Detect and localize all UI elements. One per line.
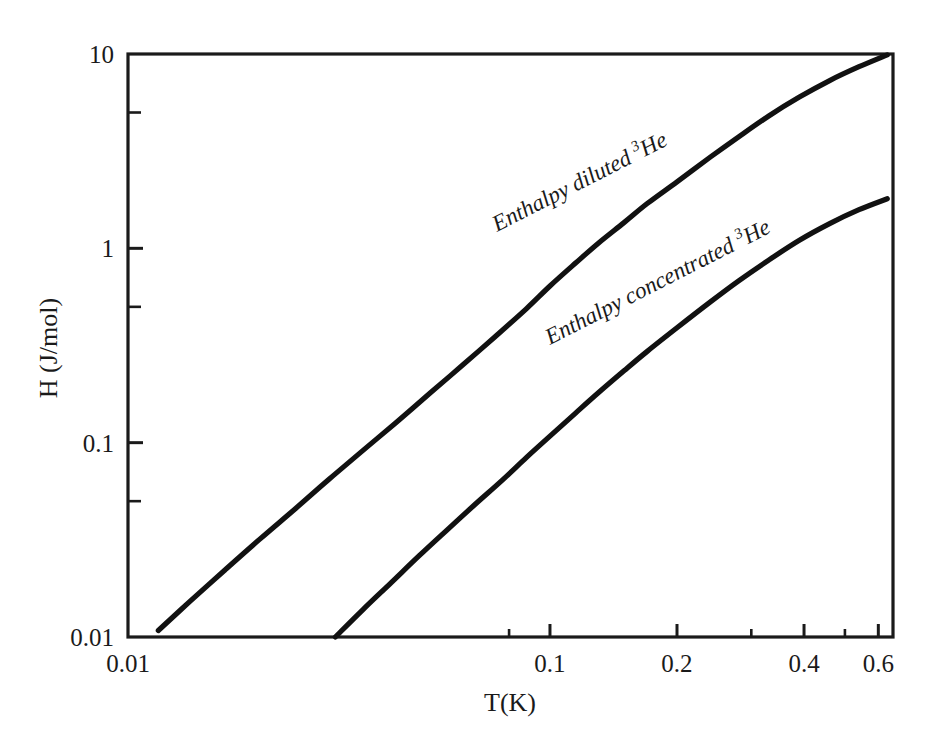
y-tick-label: 10 bbox=[89, 41, 114, 68]
x-tick-label: 0.2 bbox=[661, 650, 692, 677]
x-axis-title: T(K) bbox=[484, 688, 536, 717]
y-axis-title: H (J/mol) bbox=[34, 298, 63, 398]
y-tick-label: 1 bbox=[102, 235, 115, 262]
chart-background bbox=[0, 0, 944, 746]
x-tick-label: 0.6 bbox=[863, 650, 894, 677]
chart-canvas: 0.010.10.20.40.6 1010.10.01 T(K) H (J/mo… bbox=[0, 0, 944, 746]
x-tick-label: 0.01 bbox=[106, 650, 150, 677]
y-tick-label: 0.1 bbox=[83, 430, 114, 457]
x-tick-label: 0.1 bbox=[534, 650, 565, 677]
y-tick-label: 0.01 bbox=[70, 624, 114, 651]
enthalpy-log-log-chart: 0.010.10.20.40.6 1010.10.01 T(K) H (J/mo… bbox=[0, 0, 944, 746]
x-tick-label: 0.4 bbox=[788, 650, 820, 677]
